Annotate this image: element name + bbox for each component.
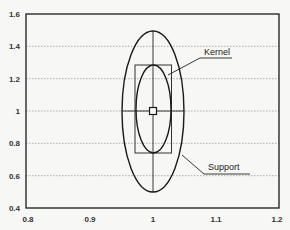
x-axis-labels: 0.8 0.9 1 1.1 1.2 xyxy=(22,215,283,224)
y-tick-label: 0.4 xyxy=(9,204,21,213)
x-tick-label: 0.9 xyxy=(84,215,96,224)
y-tick-label: 1.6 xyxy=(9,10,21,19)
support-label: Support xyxy=(208,162,240,172)
center-marker xyxy=(150,108,157,115)
chart-figure: Kernel Support 1.6 1.4 1.2 1 0.8 0.6 0.4… xyxy=(0,0,290,230)
x-tick-label: 1.2 xyxy=(271,215,283,224)
x-tick-label: 1.1 xyxy=(210,215,222,224)
y-tick-label: 1.4 xyxy=(9,42,21,51)
x-tick-label: 0.8 xyxy=(22,215,34,224)
y-tick-label: 0.6 xyxy=(9,172,21,181)
x-tick-label: 1 xyxy=(151,215,156,224)
kernel-label: Kernel xyxy=(204,47,230,57)
y-axis-labels: 1.6 1.4 1.2 1 0.8 0.6 0.4 xyxy=(9,10,21,213)
y-tick-label: 1 xyxy=(16,107,21,116)
y-tick-label: 0.8 xyxy=(9,139,21,148)
y-tick-label: 1.2 xyxy=(9,75,21,84)
